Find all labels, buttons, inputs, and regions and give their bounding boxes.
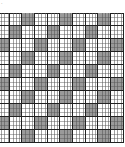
sub-grid-line bbox=[98, 108, 110, 109]
sub-grid-line bbox=[89, 65, 90, 77]
sub-grid-line bbox=[48, 43, 60, 44]
sub-grid-line bbox=[67, 26, 68, 38]
sub-grid-line bbox=[121, 39, 122, 51]
plain-cell bbox=[98, 26, 111, 39]
sub-grid-line bbox=[117, 65, 118, 77]
sub-grid-line bbox=[83, 91, 84, 103]
sub-grid-line bbox=[76, 52, 77, 64]
sub-grid-line bbox=[86, 17, 98, 18]
sub-grid-line bbox=[10, 34, 22, 35]
sub-grid-line bbox=[121, 78, 122, 90]
shaded-cell bbox=[10, 26, 23, 39]
plain-cell bbox=[35, 65, 48, 78]
shaded-cell bbox=[60, 130, 73, 143]
sub-grid-line bbox=[70, 52, 71, 64]
sub-grid-line bbox=[0, 95, 9, 96]
plain-cell bbox=[10, 130, 23, 143]
plain-cell bbox=[73, 26, 86, 39]
sub-grid-line bbox=[79, 130, 80, 142]
sub-grid-line bbox=[111, 47, 123, 48]
sub-grid-line bbox=[1, 91, 2, 103]
sub-grid-line bbox=[54, 104, 55, 116]
sub-grid-line bbox=[117, 26, 118, 38]
plain-cell bbox=[48, 78, 61, 91]
sub-grid-line bbox=[45, 130, 46, 142]
sub-grid-line bbox=[10, 17, 22, 18]
sub-grid-line bbox=[117, 91, 118, 103]
sub-grid-line bbox=[121, 52, 122, 64]
sub-grid-line bbox=[19, 26, 20, 38]
sub-grid-line bbox=[19, 52, 20, 64]
sub-grid-line bbox=[111, 134, 123, 135]
sub-grid-line bbox=[67, 104, 68, 116]
sub-grid-line bbox=[10, 95, 22, 96]
plain-cell bbox=[35, 130, 48, 143]
sub-grid-line bbox=[86, 47, 98, 48]
sub-grid-line bbox=[86, 99, 98, 100]
sub-grid-line bbox=[10, 56, 22, 57]
sub-grid-line bbox=[73, 47, 85, 48]
sub-grid-line bbox=[92, 78, 93, 90]
shaded-cell bbox=[60, 52, 73, 65]
sub-grid-line bbox=[25, 104, 26, 116]
sub-grid-line bbox=[73, 99, 85, 100]
sub-grid-line bbox=[102, 130, 103, 142]
sub-grid-line bbox=[83, 65, 84, 77]
sub-grid-line bbox=[73, 138, 85, 139]
sub-grid-line bbox=[45, 26, 46, 38]
sub-grid-line bbox=[41, 13, 42, 25]
sub-grid-line bbox=[41, 39, 42, 51]
sub-grid-line bbox=[73, 125, 85, 126]
sub-grid-line bbox=[1, 65, 2, 77]
sub-grid-line bbox=[41, 130, 42, 142]
sub-grid-line bbox=[45, 13, 46, 25]
sub-grid-line bbox=[48, 134, 60, 135]
sub-grid-line bbox=[70, 65, 71, 77]
sub-grid-line bbox=[70, 39, 71, 51]
sub-grid-line bbox=[10, 138, 22, 139]
sub-grid-line bbox=[8, 65, 9, 77]
sub-grid-line bbox=[64, 117, 65, 129]
sub-grid-line bbox=[95, 26, 96, 38]
sub-grid-line bbox=[22, 86, 34, 87]
sub-grid-line bbox=[16, 117, 17, 129]
sub-grid-line bbox=[108, 26, 109, 38]
sub-grid-line bbox=[51, 26, 52, 38]
sub-grid-line bbox=[89, 13, 90, 25]
sub-grid-line bbox=[48, 17, 60, 18]
sub-grid-line bbox=[8, 26, 9, 38]
plain-cell bbox=[86, 130, 99, 143]
sub-grid-line bbox=[86, 34, 98, 35]
sub-grid-line bbox=[48, 108, 60, 109]
sub-grid-line bbox=[0, 43, 9, 44]
sub-grid-line bbox=[67, 39, 68, 51]
sub-grid-line bbox=[10, 73, 22, 74]
sub-grid-line bbox=[8, 39, 9, 51]
sub-grid-line bbox=[32, 104, 33, 116]
sub-grid-line bbox=[76, 65, 77, 77]
sub-grid-line bbox=[86, 121, 98, 122]
sub-grid-line bbox=[51, 78, 52, 90]
sub-grid-line bbox=[41, 52, 42, 64]
sub-grid-line bbox=[102, 91, 103, 103]
shaded-cell bbox=[48, 65, 61, 78]
sub-grid-line bbox=[114, 91, 115, 103]
sub-grid-line bbox=[83, 13, 84, 25]
sub-grid-line bbox=[89, 39, 90, 51]
sub-grid-line bbox=[22, 134, 34, 135]
sub-grid-line bbox=[35, 17, 47, 18]
sub-grid-line bbox=[10, 86, 22, 87]
sub-grid-line bbox=[32, 26, 33, 38]
sub-grid-line bbox=[41, 104, 42, 116]
sub-grid-line bbox=[57, 130, 58, 142]
sub-grid-line bbox=[70, 104, 71, 116]
sub-grid-line bbox=[25, 13, 26, 25]
sub-grid-line bbox=[105, 104, 106, 116]
sub-grid-line bbox=[60, 108, 72, 109]
sub-grid-line bbox=[60, 47, 72, 48]
sub-grid-line bbox=[10, 82, 22, 83]
sub-grid-line bbox=[45, 39, 46, 51]
sub-grid-line bbox=[79, 26, 80, 38]
sub-grid-line bbox=[105, 78, 106, 90]
sub-grid-line bbox=[64, 91, 65, 103]
